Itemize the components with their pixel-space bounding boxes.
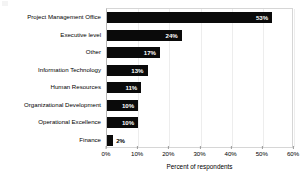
category-label: Finance [0, 136, 101, 143]
category-label: Information Technology [0, 66, 101, 73]
x-tick-mark [262, 146, 263, 149]
bar-value-label: 53% [256, 13, 268, 22]
bar-value-label: 11% [125, 83, 137, 92]
x-tick-mark [106, 146, 107, 149]
gridline [294, 9, 295, 147]
x-tick-label: 10% [131, 149, 143, 158]
bar-item: 10% [107, 100, 138, 111]
x-tick-label: 30% [193, 149, 205, 158]
bar-item: 10% [107, 117, 138, 128]
x-axis-ticks: 0%10%20%30%40%50%60% [106, 149, 293, 161]
bar-chart: Project Management OfficeExecutive level… [0, 0, 308, 182]
category-label: Executive level [0, 31, 101, 38]
x-axis-title: Percent of respondents [106, 162, 293, 171]
bar [107, 135, 113, 146]
bar-item: 13% [107, 65, 148, 76]
bar-item: 11% [107, 82, 141, 93]
gridline [263, 9, 264, 147]
bar-value-label: 10% [122, 118, 134, 127]
plot-area: 53%24%17%13%11%10%10%2% [106, 8, 293, 148]
x-tick-label: 0% [102, 149, 111, 158]
category-label: Operational Excellence [0, 118, 101, 125]
bar-item: 53% [107, 12, 272, 23]
x-tick-mark [293, 146, 294, 149]
gridline [232, 9, 233, 147]
bar-value-label: 10% [122, 101, 134, 110]
bar-value-label: 2% [116, 136, 125, 145]
x-tick-mark [168, 146, 169, 149]
category-label: Organizational Development [0, 101, 101, 108]
x-tick-label: 60% [287, 149, 299, 158]
gridline [201, 9, 202, 147]
bar-value-label: 24% [166, 31, 178, 40]
bar-item: 2% [107, 135, 113, 146]
x-tick-mark [137, 146, 138, 149]
x-tick-label: 40% [225, 149, 237, 158]
bar-item: 24% [107, 30, 182, 41]
image-artifact [2, 1, 8, 6]
x-tick-mark [231, 146, 232, 149]
category-label: Other [0, 48, 101, 55]
x-tick-label: 20% [162, 149, 174, 158]
x-tick-mark [199, 146, 200, 149]
bar [107, 12, 272, 23]
bar-item: 17% [107, 47, 160, 58]
bar-value-label: 13% [131, 66, 143, 75]
category-label: Project Management Office [0, 13, 101, 20]
x-tick-label: 50% [256, 149, 268, 158]
bar-value-label: 17% [144, 48, 156, 57]
category-axis-labels: Project Management OfficeExecutive level… [0, 8, 104, 148]
category-label: Human Resources [0, 83, 101, 90]
